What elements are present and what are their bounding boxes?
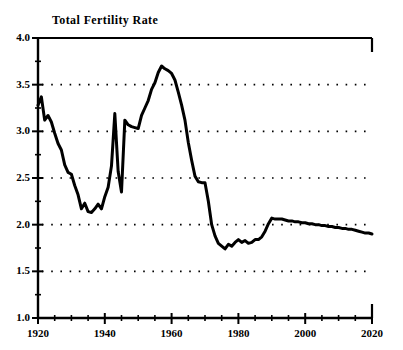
x-axis-tick-label: 1920 (16, 327, 60, 339)
y-axis-tick-label: 2.0 (0, 218, 30, 230)
x-axis-tick-label: 2020 (350, 327, 394, 339)
x-axis-tick-label: 1960 (150, 327, 194, 339)
y-axis-tick-label: 2.5 (0, 171, 30, 183)
fertility-rate-chart-figure: Total Fertility Rate 4.03.53.02.52.01.51… (0, 0, 403, 350)
y-axis-tick-label: 1.5 (0, 264, 30, 276)
y-axis-tick-label: 3.0 (0, 124, 30, 136)
y-axis-tick-label: 3.5 (0, 78, 30, 90)
x-axis-tick-label: 1980 (216, 327, 260, 339)
y-axis-tick-label: 1.0 (0, 311, 30, 323)
y-axis-tick-label: 4.0 (0, 31, 30, 43)
data-line-total-fertility-rate (38, 66, 372, 249)
x-axis-tick-label: 1940 (83, 327, 127, 339)
x-axis-tick-label: 2000 (283, 327, 327, 339)
chart-plot-area (0, 0, 403, 350)
